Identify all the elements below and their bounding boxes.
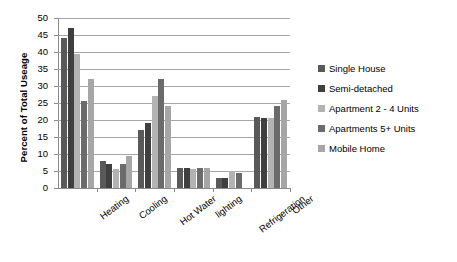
bar [222,178,228,188]
bar [190,169,196,188]
bar [145,123,151,188]
bar [197,168,203,188]
bar [165,106,171,188]
bar [254,117,260,188]
bar [216,178,222,188]
bar [100,161,106,188]
chart-legend: Single HouseSemi-detachedApartment 2 - 4… [318,58,457,158]
bar [184,168,190,188]
bar-group [61,18,93,188]
legend-swatch-icon [318,105,325,112]
bar [281,100,287,188]
y-tick-label: 5 [24,166,48,175]
bar [274,106,280,188]
bar-group [177,18,209,188]
x-category-label: Cooling [136,193,168,221]
bar [261,118,267,188]
y-tick-label: 25 [24,98,48,107]
legend-item-label: Apartments 5+ Units [329,123,415,134]
y-tick-label: 45 [24,30,48,39]
x-category-label: Other [289,193,315,216]
y-tick-label: 35 [24,64,48,73]
bar [88,79,94,188]
plot-area [58,18,290,188]
legend-item-label: Semi-detached [329,83,393,94]
x-tick-mark [213,188,214,192]
bar [152,96,158,188]
legend-item[interactable]: Mobile Home [318,138,457,158]
x-tick-mark [97,188,98,192]
bar [81,101,87,188]
y-tick-label: 50 [24,13,48,22]
x-tick-mark [290,188,291,192]
bar [106,164,112,188]
bar-group [100,18,132,188]
bar [74,54,80,188]
y-tick-label: 30 [24,81,48,90]
x-tick-mark [174,188,175,192]
legend-item-label: Single House [329,63,386,74]
y-tick-label: 10 [24,149,48,158]
x-category-label: Hot Water [177,193,217,227]
bar-group [216,18,248,188]
legend-swatch-icon [318,85,325,92]
legend-item[interactable]: Single House [318,58,457,78]
bar [61,38,67,188]
legend-item[interactable]: Apartments 5+ Units [318,118,457,138]
bar [120,164,126,188]
bar [68,28,74,188]
x-category-label: Heating [98,193,131,221]
bar-group [138,18,170,188]
y-tick-label: 40 [24,47,48,56]
legend-swatch-icon [318,145,325,152]
bar-group [254,18,286,188]
legend-item[interactable]: Semi-detached [318,78,457,98]
legend-swatch-icon [318,125,325,132]
bar [126,156,132,188]
bar-chart: Percent of Total Useage 0510152025303540… [0,0,457,262]
legend-item-label: Mobile Home [329,143,385,154]
bar [138,130,144,188]
x-tick-mark [251,188,252,192]
y-tick-label: 20 [24,115,48,124]
bar [229,171,235,188]
bar [204,168,210,188]
y-tick-label: 0 [24,183,48,192]
bar [268,118,274,188]
bar [177,168,183,188]
bar [113,169,119,188]
legend-item-label: Apartment 2 - 4 Units [329,103,419,114]
legend-item[interactable]: Apartment 2 - 4 Units [318,98,457,118]
bar [236,173,242,188]
bar [158,79,164,188]
x-category-label: lighting [213,193,244,220]
x-tick-mark [135,188,136,192]
legend-swatch-icon [318,65,325,72]
y-tick-label: 15 [24,132,48,141]
